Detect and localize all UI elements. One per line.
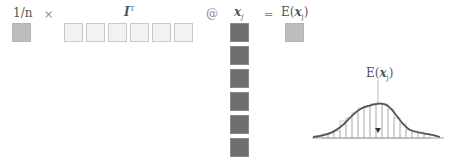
distribution-plot [0,0,453,160]
histogram-bars [322,103,430,138]
